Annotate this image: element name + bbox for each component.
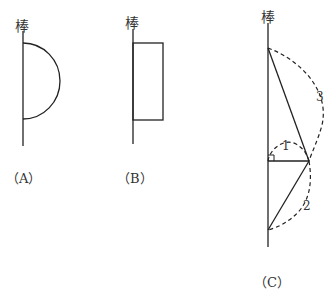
semicircle-plate [23, 43, 60, 119]
caption-c: （C） [254, 275, 290, 290]
figure-a: 棒 （A） [6, 18, 60, 186]
arc-label-2: 2 [303, 199, 311, 213]
figure-c: 棒 1 2 3 （C） [254, 9, 324, 290]
rod-label-c: 棒 [261, 9, 275, 25]
rod-label-b: 棒 [125, 15, 139, 31]
rod-label-a: 棒 [15, 18, 29, 34]
caption-a: （A） [6, 171, 41, 186]
caption-b: （B） [117, 171, 153, 186]
figure-b: 棒 （B） [117, 15, 163, 186]
diagram-canvas: 棒 （A） 棒 （B） 棒 1 2 3 （C） [0, 0, 335, 298]
lower-diagonal [268, 161, 309, 230]
arc-label-1: 1 [282, 139, 290, 153]
arc-label-3: 3 [316, 90, 324, 104]
rectangle-plate [133, 43, 163, 120]
